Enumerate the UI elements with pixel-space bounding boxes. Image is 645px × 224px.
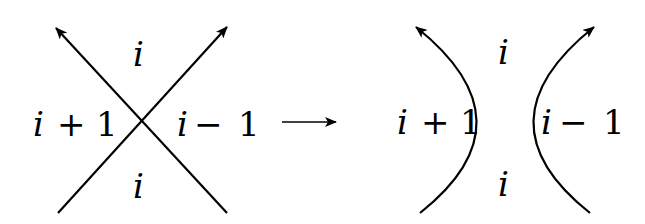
skein-relation-diagram: i i i + 1 i − 1 i i i + 1 i − 1 (0, 0, 645, 224)
svg-text:1: 1 (603, 102, 625, 142)
svg-text:i: i (177, 104, 188, 144)
svg-text:i: i (541, 102, 552, 142)
svg-text:1: 1 (96, 104, 118, 144)
svg-text:1: 1 (460, 102, 482, 142)
svg-text:1: 1 (238, 104, 260, 144)
region-label-left: i + 1 (33, 104, 118, 144)
region-label-top: i (133, 34, 144, 74)
region-label-left: i + 1 (397, 102, 482, 142)
crossing-figure: i i i + 1 i − 1 (33, 27, 260, 213)
region-label-bottom: i (133, 166, 144, 206)
svg-text:−: − (559, 102, 588, 142)
region-label-top: i (498, 32, 509, 72)
region-label-right: i − 1 (177, 104, 260, 144)
svg-text:i: i (33, 104, 44, 144)
region-label-right: i − 1 (541, 102, 625, 142)
svg-text:−: − (194, 104, 223, 144)
region-label-bottom: i (498, 164, 509, 204)
svg-text:+: + (57, 104, 86, 144)
svg-text:i: i (397, 102, 408, 142)
svg-text:+: + (421, 102, 450, 142)
smoothing-figure: i i i + 1 i − 1 (397, 27, 625, 213)
